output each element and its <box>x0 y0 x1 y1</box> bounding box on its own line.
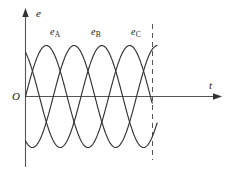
curve-label-eb: eB <box>91 27 100 37</box>
curve-label-ec: eC <box>131 27 140 37</box>
curve-label-ec-sub: C <box>136 30 141 39</box>
curve-label-eb-sub: B <box>96 30 101 39</box>
curve-label-ea-sub: A <box>55 30 60 39</box>
waveform-plot <box>0 0 237 183</box>
x-axis-label: t <box>209 80 212 91</box>
waveform-figure: e t O eA eB eC <box>0 0 237 183</box>
curve-label-ea: eA <box>50 27 60 37</box>
y-axis-arrowhead <box>22 8 28 17</box>
curve-label-ea-base: e <box>50 26 54 37</box>
curve-label-ec-base: e <box>131 26 135 37</box>
curve-label-eb-base: e <box>91 26 95 37</box>
x-axis-arrowhead <box>213 93 222 99</box>
origin-label: O <box>12 91 20 102</box>
y-axis-label: e <box>36 8 41 19</box>
